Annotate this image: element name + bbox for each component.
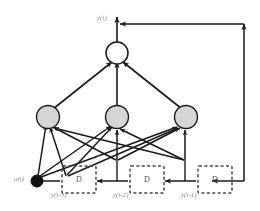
network-graphics — [0, 0, 260, 211]
input-label: u(t) — [14, 176, 24, 183]
edge-tap3-hidden1 — [54, 128, 184, 160]
input-node — [31, 175, 43, 187]
hidden-neurons — [37, 106, 198, 129]
tap-label-3: y(t-1) — [181, 192, 197, 199]
hidden-neuron-1 — [37, 106, 60, 129]
delay-box-1-label: D — [76, 176, 82, 184]
output-feedback-path — [120, 24, 244, 181]
delay-box-3-label: D — [212, 176, 218, 184]
hidden-neuron-3 — [175, 106, 198, 129]
tap-label-1: y(t-3) — [51, 192, 67, 199]
delay-tap-risers — [117, 160, 185, 181]
edge-hidden1-output — [53, 62, 112, 109]
hidden-to-output-connections — [53, 62, 182, 109]
edge-input-hidden1 — [38, 125, 46, 176]
tap-label-2: y(t-2) — [113, 192, 129, 199]
edge-hidden3-output — [123, 62, 182, 109]
edge-tap1-hidden2 — [67, 127, 112, 175]
narx-network-diagram: y(t) u(t) D D D y(t-3) y(t-2) y(t-1) — [0, 0, 260, 211]
delay-box-2-label: D — [144, 176, 150, 184]
hidden-neuron-2 — [106, 106, 129, 129]
output-label: y(t) — [97, 15, 107, 22]
edge-tap1-hidden1 — [50, 127, 66, 176]
output-neuron — [106, 42, 128, 64]
